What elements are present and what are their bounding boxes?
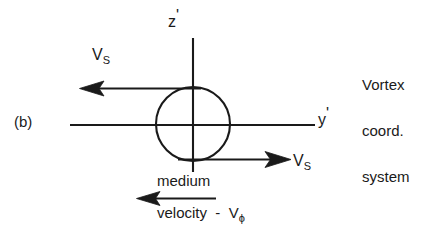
panel-label: (b) [14,114,32,129]
upper-vs-label: VS [92,47,110,63]
axis-label-y-text: y [318,111,326,128]
medium-label: medium [157,173,210,188]
side-note: Vortex coord. system [362,47,410,215]
side-note-line-1: Vortex [362,77,410,93]
lower-vs-subscript: S [304,160,311,172]
axis-label-z-text: z [168,13,176,30]
axis-label-y: y' [318,112,329,128]
axis-label-y-prime: ' [326,105,329,122]
medium-velocity-label: velocity - Vϕ [157,205,245,220]
side-note-line-2: coord. [362,123,410,139]
upper-vs-subscript: S [103,54,110,66]
lower-vs-symbol: V [293,152,304,169]
axis-label-z-prime: ' [176,7,179,24]
side-note-line-3: system [362,169,410,185]
upper-vs-symbol: V [92,46,103,63]
axis-label-z: z' [168,14,179,30]
lower-vs-arrow [178,152,291,168]
lower-vs-label: VS [293,153,311,169]
vortex-coordinate-figure: (b) z' y' VS VS medium velocity - Vϕ Vor… [0,0,446,243]
upper-vs-arrow [80,81,202,96]
medium-velocity-text: velocity - V [157,204,239,221]
medium-velocity-subscript: ϕ [239,212,245,224]
